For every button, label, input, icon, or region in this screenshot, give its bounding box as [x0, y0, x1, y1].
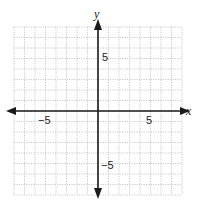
x-axis-label: x [185, 104, 192, 118]
y-tick-label-neg5: −5 [101, 159, 114, 171]
coordinate-plane: y x −5 5 5 −5 [0, 0, 198, 200]
y-axis-down-arrow-icon [94, 188, 102, 199]
y-tick-label-pos5: 5 [102, 51, 108, 63]
x-tick-label-neg5: −5 [38, 114, 51, 126]
y-axis-label: y [93, 7, 100, 21]
x-axis-left-arrow-icon [6, 107, 16, 115]
x-tick-label-pos5: 5 [146, 114, 152, 126]
